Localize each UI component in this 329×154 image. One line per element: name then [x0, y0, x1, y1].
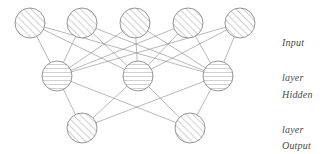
node-hatch-h1 [42, 61, 72, 91]
hidden-layer-label-line1: Hidden [282, 89, 313, 101]
network-graph-canvas [0, 0, 329, 154]
node-hatch-h2 [123, 61, 153, 91]
node-hatch-o2 [175, 113, 205, 143]
node-o1[interactable] [67, 113, 97, 143]
node-o2[interactable] [175, 113, 205, 143]
node-i5[interactable] [225, 8, 255, 38]
neural-network-diagram: Input layer Hidden layer Output layer [0, 0, 329, 154]
input-layer-label-line1: Input [282, 37, 304, 49]
node-h3[interactable] [203, 61, 233, 91]
node-hatch-i2 [67, 8, 97, 38]
node-i3[interactable] [120, 8, 150, 38]
node-hatch-i3 [120, 8, 150, 38]
output-layer-label-line1: Output [282, 140, 311, 152]
node-group [15, 8, 255, 143]
node-hatch-h3 [203, 61, 233, 91]
node-hatch-i5 [225, 8, 255, 38]
node-h1[interactable] [42, 61, 72, 91]
node-hatch-i4 [173, 8, 203, 38]
node-hatch-i1 [15, 8, 45, 38]
node-i1[interactable] [15, 8, 45, 38]
node-h2[interactable] [123, 61, 153, 91]
node-hatch-o1 [67, 113, 97, 143]
node-i2[interactable] [67, 8, 97, 38]
node-i4[interactable] [173, 8, 203, 38]
output-layer-label: Output layer [282, 117, 311, 154]
